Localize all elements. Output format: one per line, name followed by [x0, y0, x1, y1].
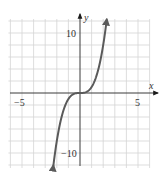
- x-axis-label: x: [148, 80, 154, 91]
- x-tick-label-5: 5: [135, 97, 140, 108]
- x-tick-label-neg5: −5: [14, 97, 25, 108]
- y-tick-label-10: 10: [66, 28, 76, 39]
- axes: [10, 14, 158, 166]
- cubic-function-graph: y x −5 5 10 −10: [0, 0, 166, 175]
- y-tick-label-neg10: −10: [61, 148, 77, 159]
- y-axis-label: y: [83, 12, 89, 23]
